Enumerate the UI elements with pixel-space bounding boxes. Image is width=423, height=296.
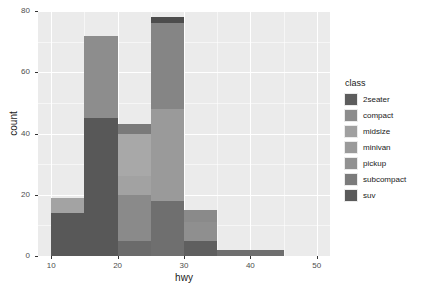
x-axis-tick <box>250 256 251 259</box>
bar-segment <box>151 23 184 109</box>
histogram-bar <box>151 11 184 256</box>
legend-color-swatch <box>345 142 357 153</box>
x-axis-tick-label: 40 <box>235 261 265 270</box>
legend-color-swatch <box>345 158 357 169</box>
bar-segment <box>184 222 217 240</box>
x-axis-tick-label: 10 <box>36 261 66 270</box>
legend-key <box>344 173 358 186</box>
bar-segment <box>118 176 151 194</box>
legend-item-label: 2seater <box>363 95 390 104</box>
chart-root: 0204060801020304050 hwy count class 2sea… <box>0 0 423 296</box>
legend-color-swatch <box>345 126 357 137</box>
legend-items: 2seatercompactmidsizeminivanpickupsubcom… <box>344 92 422 203</box>
bar-segment <box>118 195 151 241</box>
bar-segment <box>118 134 151 177</box>
legend-item-label: pickup <box>363 159 386 168</box>
x-axis-tick <box>317 256 318 259</box>
histogram-bar <box>184 11 217 256</box>
x-axis-tick-label: 30 <box>169 261 199 270</box>
bar-segment <box>184 241 217 256</box>
legend-color-swatch <box>345 174 357 185</box>
bar-segment <box>118 124 151 133</box>
legend-title: class <box>345 78 422 88</box>
legend-key <box>344 189 358 202</box>
legend-item-label: midsize <box>363 127 390 136</box>
y-axis-tick <box>35 195 38 196</box>
legend: class 2seatercompactmidsizeminivanpickup… <box>344 78 422 204</box>
legend-item-compact[interactable]: compact <box>344 108 422 123</box>
legend-item-2seater[interactable]: 2seater <box>344 92 422 107</box>
histogram-bar <box>118 11 151 256</box>
legend-item-suv[interactable]: suv <box>344 188 422 203</box>
legend-key <box>344 141 358 154</box>
bar-segment <box>184 210 217 222</box>
legend-item-label: subcompact <box>363 175 406 184</box>
y-axis-title: count <box>8 89 19 159</box>
legend-color-swatch <box>345 94 357 105</box>
legend-color-swatch <box>345 110 357 121</box>
legend-key <box>344 109 358 122</box>
legend-item-minivan[interactable]: minivan <box>344 140 422 155</box>
legend-item-label: compact <box>363 111 393 120</box>
x-axis-tick <box>51 256 52 259</box>
y-axis-tick <box>35 134 38 135</box>
bar-segment <box>151 17 184 23</box>
legend-item-pickup[interactable]: pickup <box>344 156 422 171</box>
y-axis-tick <box>35 256 38 257</box>
y-axis-tick <box>35 72 38 73</box>
y-axis-tick-label: 20 <box>4 190 30 199</box>
y-axis-tick-label: 60 <box>4 67 30 76</box>
histogram-bar <box>84 11 117 256</box>
bar-segment <box>51 213 84 256</box>
bar-segment <box>118 241 151 256</box>
legend-key <box>344 157 358 170</box>
legend-item-midsize[interactable]: midsize <box>344 124 422 139</box>
bar-segment <box>151 109 184 201</box>
gridline-major-vertical <box>317 11 318 256</box>
legend-color-swatch <box>345 190 357 201</box>
x-axis-tick <box>184 256 185 259</box>
legend-key <box>344 93 358 106</box>
y-axis-tick-label: 0 <box>4 251 30 260</box>
legend-item-subcompact[interactable]: subcompact <box>344 172 422 187</box>
bar-segment <box>217 250 250 256</box>
y-axis-tick-label: 80 <box>4 6 30 15</box>
bar-segment <box>250 250 283 256</box>
legend-item-label: minivan <box>363 143 391 152</box>
histogram-bar <box>217 11 250 256</box>
x-axis-tick-label: 20 <box>103 261 133 270</box>
histogram-bar <box>51 11 84 256</box>
y-axis-tick <box>35 11 38 12</box>
bar-segment <box>51 198 84 213</box>
legend-key <box>344 125 358 138</box>
legend-item-label: suv <box>363 191 375 200</box>
bar-segment <box>84 118 117 256</box>
bar-segment <box>84 36 117 119</box>
histogram-bar <box>250 11 283 256</box>
plot-panel <box>38 11 330 256</box>
bar-segment <box>151 201 184 256</box>
x-axis-tick-label: 50 <box>302 261 332 270</box>
x-axis-tick <box>118 256 119 259</box>
x-axis-title: hwy <box>38 272 330 283</box>
